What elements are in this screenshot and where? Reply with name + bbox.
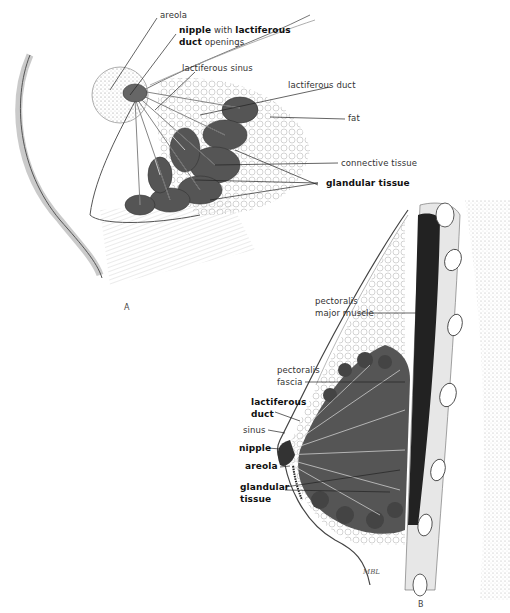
label-pectoralis-major-2: major muscle — [315, 308, 374, 319]
label-sinus: sinus — [243, 425, 266, 436]
label-connective-tissue: connective tissue — [341, 158, 417, 169]
label-lactiferous-duct-a: lactiferous duct — [288, 80, 356, 91]
figure-b-drawing — [278, 200, 510, 600]
label-with: with — [211, 25, 235, 35]
label-glandular-tissue-a: glandular tissue — [326, 178, 410, 189]
artist-signature: MBL — [363, 568, 380, 576]
label-areola-a: areola — [160, 10, 187, 21]
label-lactiferous-bold: lactiferous — [235, 25, 290, 35]
label-duct-bold: duct — [179, 37, 202, 47]
label-fat: fat — [348, 113, 360, 124]
label-nipple-b: nipple — [239, 443, 271, 454]
label-duct-openings: duct openings — [179, 37, 244, 48]
label-lactiferous-duct-b-2: duct — [251, 409, 274, 420]
label-glandular-tissue-b-1: glandular — [240, 482, 289, 493]
label-glandular-tissue-b-2: tissue — [240, 494, 271, 505]
label-pectoralis-major-1: pectoralis — [315, 296, 358, 307]
label-nipple-with-lactiferous: nipple with lactiferous — [179, 25, 291, 36]
label-openings: openings — [202, 37, 244, 47]
label-pectoralis-fascia-2: fascia — [277, 377, 302, 388]
panel-label-a: A — [124, 303, 129, 312]
panel-label-b: B — [418, 600, 424, 609]
label-lactiferous-duct-b-1: lactiferous — [251, 397, 306, 408]
label-pectoralis-fascia-1: pectoralis — [277, 365, 320, 376]
anatomy-illustration — [0, 0, 510, 613]
label-nipple-bold: nipple — [179, 25, 211, 35]
label-areola-b: areola — [245, 461, 278, 472]
label-lactiferous-sinus: lactiferous sinus — [182, 63, 253, 74]
figure-a-drawing — [19, 15, 315, 285]
